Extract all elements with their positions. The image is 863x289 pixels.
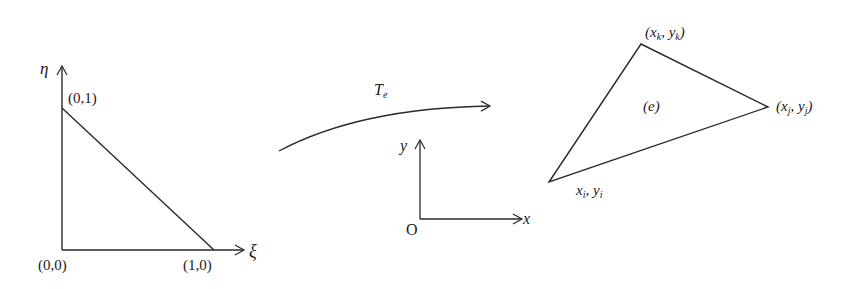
mapping-label: Te (374, 82, 387, 100)
vertex-i-label: xi, yi (576, 183, 602, 200)
vertex-k-label: (xk, yk) (645, 25, 685, 42)
xi-label: ξ (249, 242, 257, 260)
mapping-arrow (279, 106, 490, 151)
diagram-canvas (0, 0, 863, 289)
y-axis-label: y (400, 138, 407, 154)
reference-hypotenuse (62, 108, 214, 250)
vertex-j-label: (xj, yj) (776, 99, 812, 116)
vertex-0-0-label: (0,0) (38, 258, 67, 273)
origin-label: O (406, 222, 418, 238)
eta-label: η (40, 60, 48, 77)
element-label: (e) (643, 99, 660, 114)
x-axis-label: x (523, 211, 530, 227)
vertex-0-1-label: (0,1) (68, 91, 97, 106)
vertex-1-0-label: (1,0) (183, 258, 212, 273)
